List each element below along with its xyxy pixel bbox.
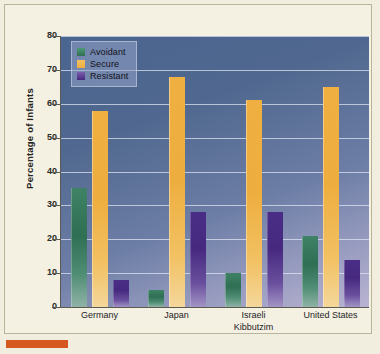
bar-resistant-1 — [190, 212, 206, 307]
y-tick-mark — [52, 205, 60, 206]
chart-legend: AvoidantSecureResistant — [71, 41, 137, 87]
legend-item-avoidant[interactable]: Avoidant — [77, 46, 128, 58]
chart-card: 80706050403020100 Percentage of Infants … — [4, 4, 372, 334]
y-tick-label: 80 — [19, 30, 57, 40]
bar-secure-0 — [92, 111, 108, 307]
y-tick-mark — [52, 70, 60, 71]
x-axis-tick-labels: GermanyJapanIsraeliKibbutzimUnited State… — [61, 310, 369, 344]
bar-resistant-3 — [344, 260, 360, 307]
legend-swatch-icon — [77, 48, 85, 56]
bar-secure-2 — [246, 100, 262, 307]
legend-label: Avoidant — [90, 47, 126, 57]
legend-swatch-icon — [77, 60, 85, 68]
y-tick-mark — [52, 36, 60, 37]
y-tick-mark — [52, 172, 60, 173]
chart-page: 80706050403020100 Percentage of Infants … — [0, 0, 380, 354]
x-tick-label-2: IsraeliKibbutzim — [215, 310, 292, 333]
y-tick-mark — [52, 138, 60, 139]
x-tick-label-1: Japan — [138, 310, 215, 322]
y-tick-label: 0 — [19, 301, 57, 311]
x-tick-label-0: Germany — [61, 310, 138, 322]
bar-avoidant-1 — [148, 290, 164, 307]
bar-resistant-2 — [267, 212, 283, 307]
legend-label: Resistant — [90, 71, 128, 81]
y-tick-mark — [52, 104, 60, 105]
bar-resistant-0 — [113, 280, 129, 307]
y-tick-mark — [52, 307, 60, 308]
y-tick-mark — [52, 239, 60, 240]
bar-group — [148, 36, 206, 307]
y-tick-label: 20 — [19, 233, 57, 243]
page-corner-mark — [6, 340, 68, 348]
legend-label: Secure — [90, 59, 119, 69]
bar-avoidant-0 — [71, 188, 87, 307]
bar-group — [302, 36, 360, 307]
y-axis-title: Percentage of Infants — [24, 49, 35, 229]
bar-avoidant-3 — [302, 236, 318, 307]
bar-secure-3 — [323, 87, 339, 307]
y-tick-mark — [52, 273, 60, 274]
legend-swatch-icon — [77, 72, 85, 80]
legend-item-resistant[interactable]: Resistant — [77, 70, 128, 82]
x-axis-line — [61, 307, 369, 308]
bar-group — [225, 36, 283, 307]
bar-avoidant-2 — [225, 273, 241, 307]
legend-item-secure[interactable]: Secure — [77, 58, 128, 70]
y-axis-line — [60, 36, 61, 308]
bar-secure-1 — [169, 77, 185, 307]
x-tick-label-3: United States — [292, 310, 369, 322]
y-tick-label: 10 — [19, 267, 57, 277]
